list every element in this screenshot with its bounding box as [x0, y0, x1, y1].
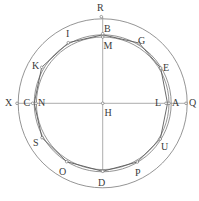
point-label-h: H — [105, 107, 112, 118]
point-marker-k — [40, 66, 43, 69]
point-label-l: L — [155, 97, 161, 108]
point-marker-c — [31, 102, 34, 105]
point-label-s: S — [33, 137, 39, 148]
point-label-u: U — [161, 141, 169, 152]
point-marker-u — [159, 138, 162, 141]
point-marker-s — [41, 136, 44, 139]
point-marker-r — [100, 15, 103, 18]
point-marker-m — [101, 36, 104, 39]
point-marker-p — [136, 161, 139, 164]
point-label-e: E — [163, 62, 169, 73]
point-label-o: O — [59, 166, 66, 177]
point-marker-a — [168, 102, 171, 105]
point-label-p: P — [135, 167, 141, 178]
point-marker-q — [185, 102, 188, 105]
point-marker-i — [67, 41, 70, 44]
point-label-r: R — [97, 2, 104, 13]
point-label-b: B — [104, 23, 111, 34]
point-marker-e — [159, 67, 162, 70]
point-label-a: A — [172, 97, 180, 108]
point-label-q: Q — [189, 97, 197, 108]
point-marker-d — [101, 170, 104, 173]
point-label-k: K — [32, 60, 40, 71]
point-marker-o — [65, 160, 68, 163]
point-marker-x — [16, 102, 19, 105]
point-marker-n — [35, 102, 38, 105]
point-label-x: X — [5, 97, 13, 108]
geometric-circle-diagram: RBMGEALQUPDOSNCXKIH — [0, 0, 199, 201]
point-label-d: D — [98, 177, 105, 188]
point-label-c: C — [24, 97, 31, 108]
point-label-n: N — [38, 97, 45, 108]
point-marker-l — [165, 102, 168, 105]
point-label-i: I — [66, 28, 69, 39]
point-label-g: G — [138, 35, 145, 46]
point-marker-h — [101, 102, 104, 105]
point-label-m: M — [104, 40, 113, 51]
